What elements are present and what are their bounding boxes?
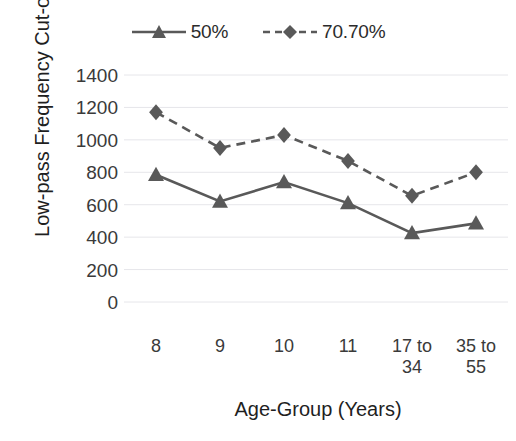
x-tick-label-line: 55: [434, 357, 516, 378]
gridlines: [124, 75, 508, 302]
x-tick-label-line: 8: [151, 336, 161, 356]
x-tick-label-line: 35 to: [456, 336, 496, 356]
diamond-marker: [341, 153, 355, 169]
diamond-marker: [213, 140, 227, 156]
series-line: [156, 175, 476, 233]
series-50: [148, 167, 484, 240]
triangle-marker: [148, 167, 164, 181]
series-7070: [149, 104, 483, 204]
chart-figure: 50% 70.70% Low-pass Frequency Cut-off 02…: [0, 0, 516, 441]
triangle-marker: [468, 215, 484, 229]
series-line: [156, 112, 476, 196]
diamond-marker: [149, 104, 163, 120]
diamond-marker: [277, 127, 291, 143]
x-tick-label-line: 11: [339, 336, 358, 356]
x-tick-label-line: 17 to: [392, 336, 432, 356]
x-tick-label: 35 to55: [434, 336, 516, 378]
diamond-marker: [469, 164, 483, 180]
diamond-marker: [405, 188, 419, 204]
x-axis-tick-labels: 89101117 to3435 to55: [120, 336, 516, 392]
x-axis-title: Age-Group (Years): [120, 398, 516, 421]
x-tick-label-line: 10: [274, 336, 294, 356]
triangle-marker: [276, 174, 292, 188]
x-tick-label-line: 9: [215, 336, 225, 356]
